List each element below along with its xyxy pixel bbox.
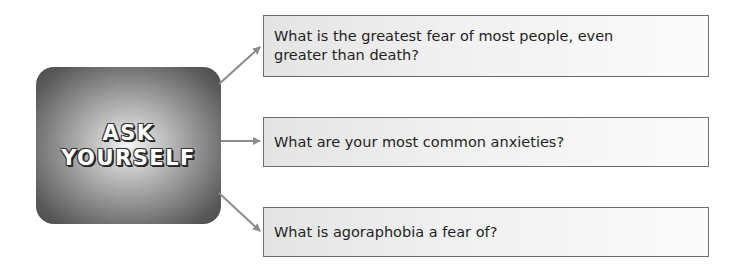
question-box-2: What are your most common anxieties? [263,117,709,167]
arrow-to-question-1 [219,47,260,84]
question-text-1: What is the greatest fear of most people… [274,27,669,65]
question-text-3: What is agoraphobia a fear of? [274,223,497,242]
question-box-1: What is the greatest fear of most people… [263,15,709,77]
question-box-3: What is agoraphobia a fear of? [263,207,709,257]
question-text-2: What are your most common anxieties? [274,133,564,152]
hub-title-line-1: ASK [102,121,154,146]
arrow-to-question-3 [219,193,260,231]
hub-title-line-2: YOURSELF [61,146,196,171]
ask-yourself-hub: ASK YOURSELF [36,67,221,224]
